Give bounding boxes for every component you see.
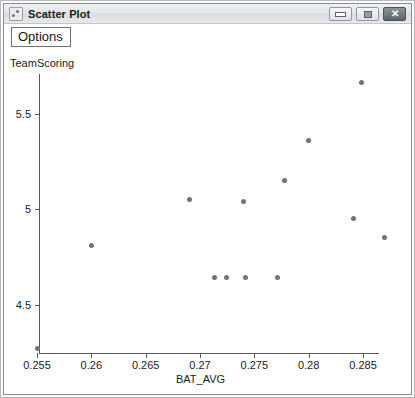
scatter-point[interactable] (241, 199, 246, 204)
scatter-point[interactable] (306, 138, 311, 143)
scatter-plot-canvas[interactable]: TeamScoring BAT_AVG 0.2550.260.2650.270.… (4, 49, 411, 394)
x-axis-title: BAT_AVG (176, 373, 225, 385)
x-axis-tick (37, 353, 38, 358)
x-axis-tick (363, 353, 364, 358)
x-axis-tick (146, 353, 147, 358)
x-axis-tick-label: 0.275 (232, 360, 276, 371)
x-axis-tick-label: 0.255 (15, 360, 59, 371)
window-controls: ✕ (329, 7, 408, 21)
window-toolbar: Options (4, 24, 411, 49)
maximize-icon (364, 11, 372, 18)
y-axis-tick-label: 5 (4, 204, 31, 214)
scatter-plot-window: Scatter Plot ✕ Options TeamScoring B (3, 3, 412, 395)
x-axis-tick (254, 353, 255, 358)
x-axis-tick-label: 0.285 (341, 360, 385, 371)
x-axis-tick-label: 0.28 (287, 360, 331, 371)
scatter-point[interactable] (382, 235, 387, 240)
y-axis-tick (35, 209, 40, 210)
chart-icon (9, 7, 23, 21)
scatter-point[interactable] (351, 216, 356, 221)
close-button[interactable]: ✕ (383, 7, 406, 21)
y-axis-line (39, 74, 40, 354)
scatter-point[interactable] (282, 178, 287, 183)
scatter-point[interactable] (187, 197, 192, 202)
y-axis-tick (35, 305, 40, 306)
minimize-icon (335, 12, 346, 17)
scatter-point[interactable] (359, 80, 364, 85)
x-axis-line (39, 353, 379, 354)
screenshot-root: Scatter Plot ✕ Options TeamScoring B (0, 0, 415, 398)
minimize-button[interactable] (329, 7, 352, 21)
y-axis-tick-label: 5.5 (4, 109, 31, 119)
y-axis-tick-label: 4.5 (4, 300, 31, 310)
maximize-button[interactable] (356, 7, 379, 21)
scatter-point[interactable] (35, 346, 40, 351)
x-axis-tick-label: 0.26 (69, 360, 113, 371)
x-axis-tick (91, 353, 92, 358)
x-axis-tick (309, 353, 310, 358)
scatter-point[interactable] (224, 275, 229, 280)
scatter-point[interactable] (275, 275, 280, 280)
close-icon: ✕ (384, 8, 405, 20)
options-button[interactable]: Options (11, 27, 71, 47)
x-axis-tick-label: 0.27 (178, 360, 222, 371)
window-title: Scatter Plot (28, 8, 90, 20)
y-axis-title: TeamScoring (10, 57, 74, 69)
y-axis-tick (35, 114, 40, 115)
x-axis-tick-label: 0.265 (124, 360, 168, 371)
scatter-point[interactable] (212, 275, 217, 280)
x-axis-tick (200, 353, 201, 358)
scatter-point[interactable] (89, 243, 94, 248)
window-titlebar[interactable]: Scatter Plot ✕ (4, 4, 411, 24)
scatter-point[interactable] (243, 275, 248, 280)
